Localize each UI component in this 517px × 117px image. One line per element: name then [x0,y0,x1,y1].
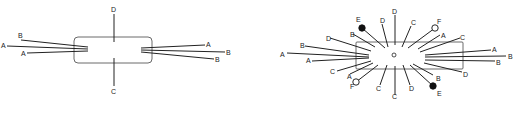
radial-line [425,50,491,55]
label: D [392,8,397,15]
right-diagram: ABADBCAEFDDCFACABBDBCCDE [280,8,513,100]
radial-line [425,56,506,57]
radial-line [350,63,373,74]
right-box [356,42,463,69]
label: F [350,83,354,90]
left-line-b [21,40,88,47]
label: B [350,31,355,38]
label: D [409,85,414,92]
label: B [496,59,501,66]
label: B [508,53,513,60]
label: A [206,41,211,48]
label: D [111,6,116,13]
label: E [356,16,361,23]
label: C [330,68,335,75]
label: B [300,42,305,49]
label: A [441,32,446,39]
label: A [306,57,311,64]
label: E [437,90,442,97]
label: A [492,46,497,53]
label: C [111,88,116,95]
label: B [18,32,23,39]
label: C [392,93,397,100]
label: B [436,75,441,82]
label: D [463,71,468,78]
diagram-canvas: B A A A B B D C ABADBCAEFDDCFACABBDBCCDE [0,0,517,117]
label: A [21,50,26,57]
label: B [226,49,231,56]
label: D [326,35,331,42]
right-line-b1 [141,50,225,52]
label: C [376,85,381,92]
radial-line [425,60,495,61]
left-box [74,37,152,63]
label: D [380,17,385,24]
open-ball-tip [432,25,438,31]
radial-line [403,65,410,85]
radial-line [380,65,387,85]
label: C [460,34,465,41]
radial-line [382,24,388,47]
radial-line [402,26,411,47]
left-diagram: B A A A B B D C [1,6,231,95]
radial-line [312,58,369,61]
left-line-a2 [27,51,88,53]
radial-line [362,28,385,48]
filled-ball-tip [359,25,365,31]
label: A [347,73,352,80]
label: A [1,42,6,49]
radial-line [413,64,433,75]
radial-line [420,38,460,52]
filled-ball-tip [430,83,436,89]
radial-line [408,28,435,48]
radial-line [330,38,371,51]
label: C [411,19,416,26]
center-point [392,53,396,57]
label: A [280,51,285,58]
right-line-a [141,45,205,48]
left-line-a1 [7,46,88,49]
radial-line [356,65,378,82]
label: F [437,18,441,25]
label: B [215,56,220,63]
radial-line [424,63,462,72]
